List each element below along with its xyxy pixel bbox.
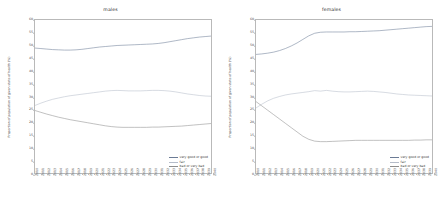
line-plot-females — [256, 20, 432, 173]
x-tick-mark — [148, 173, 149, 175]
y-tick-label: 25 — [29, 109, 33, 112]
x-tick-label: 2031 — [382, 168, 385, 176]
legend-line-icon — [169, 157, 178, 158]
x-tick-mark — [404, 173, 405, 175]
x-tick-mark — [327, 173, 328, 175]
legend-label: bad or very bad — [401, 164, 426, 169]
x-tick-mark — [195, 173, 196, 175]
x-tick-mark — [171, 173, 172, 175]
line-plot-males — [35, 20, 211, 173]
x-tick-mark — [428, 173, 429, 175]
x-tick-mark — [256, 173, 257, 175]
x-tick-mark — [183, 173, 184, 175]
x-tick-mark — [280, 173, 281, 175]
chart-title-females: females — [221, 7, 442, 13]
x-tick-mark — [94, 173, 95, 175]
x-tick-mark — [315, 173, 316, 175]
x-tick-mark — [106, 173, 107, 175]
x-tick-label: 2028 — [364, 168, 367, 176]
y-tick-label: 45 — [29, 57, 33, 60]
legend-line-icon — [390, 157, 399, 158]
x-tick-mark — [351, 173, 352, 175]
x-tick-label: 2040 — [214, 168, 217, 176]
x-axis-ticks-males: 2010201120122013201420152016201720182019… — [35, 173, 211, 203]
y-tick-label: 45 — [250, 57, 254, 60]
x-tick-label: 2013 — [275, 168, 278, 176]
chart-title-males: males — [0, 7, 221, 13]
x-tick-label: 2012 — [269, 168, 272, 176]
x-tick-mark — [136, 173, 137, 175]
x-tick-mark — [166, 173, 167, 175]
x-tick-label: 2015 — [287, 168, 290, 176]
x-tick-mark — [207, 173, 208, 175]
x-axis-ticks-females: 2010201120122013201420152016201720182019… — [256, 173, 432, 203]
y-tick-label: 55 — [250, 31, 254, 34]
y-tick-label: 40 — [250, 70, 254, 73]
x-tick-label: 2019 — [90, 168, 93, 176]
x-tick-label: 2012 — [48, 168, 51, 176]
x-tick-label: 2024 — [119, 168, 122, 176]
series-line — [256, 102, 432, 142]
legend-line-icon — [390, 166, 399, 167]
x-tick-mark — [77, 173, 78, 175]
x-tick-mark — [333, 173, 334, 175]
series-line — [35, 90, 211, 105]
y-tick-label: 10 — [29, 147, 33, 150]
x-tick-mark — [434, 173, 435, 175]
x-tick-label: 2025 — [346, 168, 349, 176]
figure-canvas: males Proportion of population of given … — [0, 0, 442, 207]
x-tick-mark — [65, 173, 66, 175]
x-tick-label: 2011 — [263, 168, 266, 176]
x-tick-label: 2025 — [125, 168, 128, 176]
series-line — [35, 36, 211, 50]
y-tick-label: 50 — [250, 44, 254, 47]
x-tick-mark — [118, 173, 119, 175]
x-tick-mark — [303, 173, 304, 175]
x-tick-mark — [88, 173, 89, 175]
x-tick-label: 2026 — [131, 168, 134, 176]
y-tick-label: 30 — [29, 96, 33, 99]
x-tick-mark — [47, 173, 48, 175]
x-tick-mark — [35, 173, 36, 175]
x-tick-mark — [59, 173, 60, 175]
x-tick-mark — [160, 173, 161, 175]
y-tick-label: 60 — [250, 18, 254, 21]
x-tick-mark — [268, 173, 269, 175]
x-tick-label: 2029 — [149, 168, 152, 176]
x-tick-mark — [201, 173, 202, 175]
y-tick-label: 50 — [29, 44, 33, 47]
y-tick-label: 20 — [250, 122, 254, 125]
y-tick-label: 15 — [29, 135, 33, 138]
x-tick-label: 2017 — [299, 168, 302, 176]
x-tick-label: 2018 — [305, 168, 308, 176]
x-tick-mark — [274, 173, 275, 175]
x-tick-label: 2024 — [340, 168, 343, 176]
y-tick-label: 30 — [250, 96, 254, 99]
x-tick-label: 2023 — [113, 168, 116, 176]
legend-item[interactable]: bad or very bad — [169, 164, 208, 169]
x-tick-label: 2020 — [317, 168, 320, 176]
x-tick-label: 2031 — [161, 168, 164, 176]
x-tick-mark — [262, 173, 263, 175]
x-tick-label: 2023 — [334, 168, 337, 176]
x-tick-label: 2022 — [108, 168, 111, 176]
x-tick-mark — [387, 173, 388, 175]
y-tick-label: 20 — [29, 122, 33, 125]
x-tick-label: 2020 — [96, 168, 99, 176]
x-tick-label: 2010 — [36, 168, 39, 176]
x-tick-mark — [124, 173, 125, 175]
x-tick-mark — [130, 173, 131, 175]
x-tick-mark — [112, 173, 113, 175]
x-tick-mark — [363, 173, 364, 175]
x-tick-mark — [100, 173, 101, 175]
legend-item[interactable]: bad or very bad — [390, 164, 429, 169]
x-tick-mark — [189, 173, 190, 175]
x-tick-label: 2039 — [208, 168, 211, 176]
x-tick-mark — [142, 173, 143, 175]
plot-area-males: Proportion of population of given state … — [34, 19, 212, 174]
x-tick-label: 2016 — [72, 168, 75, 176]
x-tick-mark — [410, 173, 411, 175]
legend-males: very good or goodfairbad or very bad — [169, 155, 208, 169]
chart-panel-males: males Proportion of population of given … — [0, 0, 221, 207]
x-tick-label: 2011 — [42, 168, 45, 176]
